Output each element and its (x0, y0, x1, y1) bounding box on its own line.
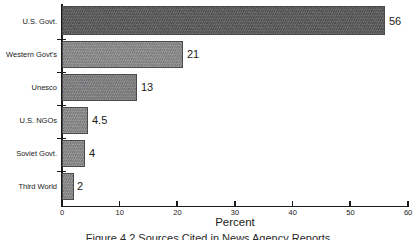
bar-value-western-govts: 21 (187, 48, 199, 60)
x-axis-title: Percent (0, 216, 416, 229)
bar-value-us-ngos: 4.5 (92, 114, 107, 126)
bar-third-world (62, 173, 74, 200)
category-tick (57, 138, 66, 140)
category-label-unesco: Unesco (32, 83, 57, 92)
category-label-third-world: Third World (18, 182, 57, 191)
category-tick (57, 72, 66, 74)
value-tick (234, 201, 236, 207)
figure-caption: Figure 4.2 Sources Cited in News Agency … (0, 232, 416, 240)
value-tick (119, 201, 121, 207)
bar-unesco (62, 74, 137, 101)
category-label-western-govts: Western Govt's (6, 50, 57, 59)
category-tick (57, 105, 66, 107)
bar-us-govt (62, 6, 385, 35)
category-tick (57, 171, 66, 173)
value-tick (407, 201, 409, 207)
category-label-us-ngos: U.S. NGOs (19, 116, 57, 125)
value-tick (349, 201, 351, 207)
x-axis-title-text: Percent (215, 216, 255, 228)
bar-western-govts (62, 41, 183, 68)
bar-us-ngos (62, 107, 88, 134)
bar-value-soviet-govt: 4 (89, 147, 95, 159)
category-label-soviet-govt: Soviet Govt. (16, 149, 57, 158)
bar-value-unesco: 13 (141, 81, 153, 93)
value-tick (61, 201, 63, 207)
value-tick (292, 201, 294, 207)
bar-value-third-world: 2 (77, 180, 83, 192)
category-label-us-govt: U.S. Govt. (22, 17, 57, 26)
bar-soviet-govt (62, 140, 85, 167)
figure-bar-chart: U.S. Govt. 56 Western Govt's 21 Unesco 1… (0, 0, 416, 240)
plot-area: U.S. Govt. 56 Western Govt's 21 Unesco 1… (0, 0, 416, 240)
category-tick (57, 39, 66, 41)
bar-value-us-govt: 56 (389, 15, 401, 27)
value-tick (176, 201, 178, 207)
